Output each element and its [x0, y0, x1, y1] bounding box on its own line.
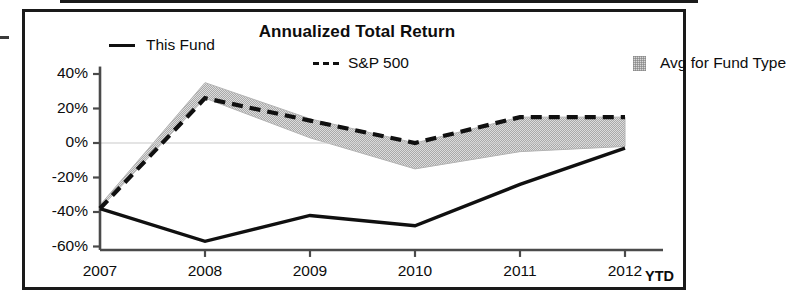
- series-band-avg-fund-type: [100, 83, 625, 209]
- series-line-this-fund: [100, 148, 625, 241]
- chart-frame: Annualized Total Return This Fund S&P 50…: [22, 9, 686, 290]
- x-axis-ytd-label: YTD: [645, 268, 674, 284]
- plot-area: 40%20%0%-20%-40%-60% 2007200820092010201…: [25, 12, 689, 293]
- y-tick-label: 0%: [28, 133, 88, 151]
- x-tick-label: 2010: [375, 262, 455, 280]
- y-tick-label: 20%: [28, 99, 88, 117]
- x-tick-label: 2007: [60, 262, 140, 280]
- y-tick-label: -60%: [28, 237, 88, 255]
- x-tick-label: 2009: [270, 262, 350, 280]
- left-edge-mark: [0, 36, 9, 39]
- x-tick-label: 2008: [165, 262, 245, 280]
- y-tick-label: 40%: [28, 64, 88, 82]
- y-tick-label: -40%: [28, 202, 88, 220]
- y-tick-label: -20%: [28, 168, 88, 186]
- x-tick-label: 2011: [480, 262, 560, 280]
- top-divider-rule: [60, 0, 698, 3]
- plot-svg: [25, 12, 689, 293]
